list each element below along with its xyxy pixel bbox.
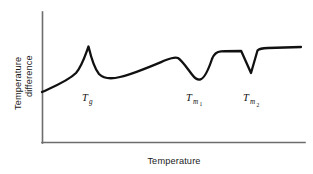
annotation-tm2-subscript: m [250, 98, 255, 106]
annotation-tg: T g [82, 92, 93, 106]
annotation-tm1: T m 1 [186, 92, 203, 107]
annotation-tm1-base: T [186, 92, 193, 103]
annotation-tm2: T m 2 [243, 92, 260, 108]
annotation-tg-subscript: g [89, 98, 93, 106]
y-axis-title: Temperature difference [13, 55, 34, 110]
x-axis-title: Temperature [147, 156, 200, 166]
thermogram-figure: Temperature difference Temperature T g T… [0, 0, 313, 174]
annotation-tm2-subsubscript: 2 [257, 102, 260, 108]
annotation-tm1-subsubscript: 1 [200, 101, 203, 107]
annotation-tm2-base: T [243, 92, 250, 103]
thermogram-curve [42, 47, 301, 93]
plot-canvas: Temperature difference Temperature T g T… [0, 0, 313, 174]
annotation-tg-base: T [82, 92, 89, 103]
y-axis-title-line1: Temperature [13, 57, 23, 110]
annotation-tm1-subscript: m [193, 98, 198, 106]
y-axis-title-line2: difference [24, 55, 34, 97]
